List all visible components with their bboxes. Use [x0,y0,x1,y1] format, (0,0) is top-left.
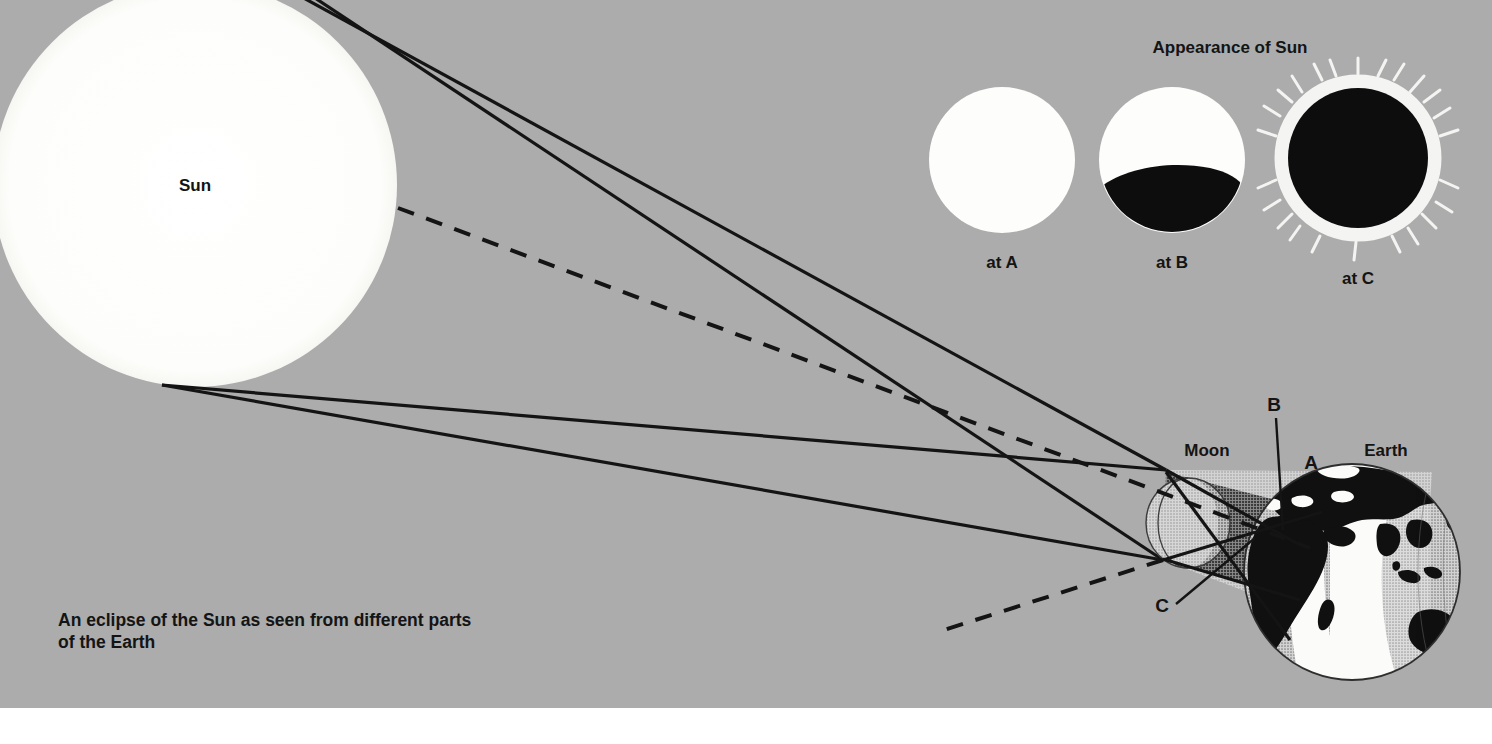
figure-caption-line1: An eclipse of the Sun as seen from diffe… [58,610,472,630]
sun-view-caption-b: at B [1156,253,1188,272]
figure-caption-line2: of the Earth [58,632,155,652]
observer-label-b: B [1267,394,1281,415]
sun-label: Sun [179,176,211,195]
observer-label-c: C [1155,595,1169,616]
page-white-margin [0,708,1492,744]
eclipse-diagram: Appearance of Sun at A at B at C Sun Moo… [0,0,1492,744]
sun-view-caption-c: at C [1342,269,1374,288]
moon-label: Moon [1184,441,1229,460]
observer-label-a: A [1304,452,1318,473]
sun-view-caption-a: at A [986,253,1018,272]
sun-view-at-a [929,87,1075,233]
earth-label: Earth [1364,441,1407,460]
appearance-heading: Appearance of Sun [1153,38,1308,57]
eclipse-figure: Appearance of Sun at A at B at C Sun Moo… [0,0,1492,744]
